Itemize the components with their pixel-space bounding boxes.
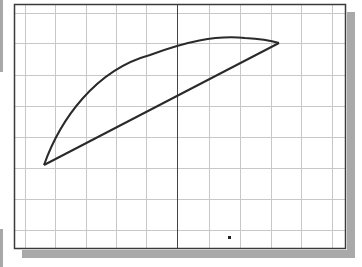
point-marker[interactable] xyxy=(228,236,231,239)
sketch-viewport[interactable] xyxy=(0,0,362,267)
drawing-area[interactable] xyxy=(14,4,346,249)
